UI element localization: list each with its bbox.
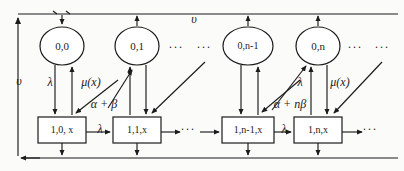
state-circle-0-1-label: 0,1	[130, 40, 144, 52]
label-lambda-coln: λ	[296, 75, 302, 89]
column-1-edges	[108, 62, 205, 115]
state-circle-0-n-label: 0,n	[311, 40, 325, 52]
label-mu-coln: μ(x)	[329, 75, 349, 89]
state-box-1-n-x-label: 1,n,x	[308, 124, 328, 135]
ellipsis-boxes-mid: ···	[181, 122, 196, 136]
column-n1-edges	[241, 65, 258, 115]
diagram-canvas: 0,0 0,1 0,n-1 0,n 1,0, x 1,1,x 1,n-1,x 1…	[0, 0, 404, 171]
ellipsis-circles-mid-b: ···	[197, 40, 212, 54]
ellipsis-circles-right-a: ···	[348, 40, 363, 54]
label-upsilon-top: υ	[191, 12, 197, 26]
state-box-1-n-1-x-label: 1,n-1,x	[234, 124, 262, 135]
ellipsis-circles-mid-a: ···	[169, 40, 184, 54]
label-lambda-col0: λ	[46, 75, 52, 89]
state-circle-0-n-1-label: 0,n-1	[238, 40, 259, 51]
edge-diagonal-to-b1	[152, 62, 205, 113]
label-alpha-n-beta: α + nβ	[274, 97, 306, 111]
state-transition-diagram: 0,0 0,1 0,n-1 0,n 1,0, x 1,1,x 1,n-1,x 1…	[0, 0, 404, 171]
circle-nodes: 0,0 0,1 0,n-1 0,n	[40, 27, 340, 65]
state-circle-0-0-label: 0,0	[55, 40, 69, 52]
label-alpha-beta: α + β	[91, 97, 117, 111]
state-box-1-0-x-label: 1,0, x	[51, 124, 74, 135]
label-upsilon-left: υ	[16, 74, 22, 88]
label-lambda-boxn: λ	[280, 122, 286, 136]
state-box-1-1-x-label: 1,1,x	[127, 124, 147, 135]
label-mu-col0: μ(x)	[80, 75, 100, 89]
bottom-rail-connectors	[62, 143, 318, 155]
ellipsis-marks: ··· ··· ··· ··· ··· ···	[169, 40, 390, 136]
ellipsis-boxes-right: ···	[363, 122, 378, 136]
label-lambda-box0: λ	[96, 122, 102, 136]
top-rail-connectors	[53, 11, 318, 26]
ellipsis-circles-right-b: ···	[375, 40, 390, 54]
